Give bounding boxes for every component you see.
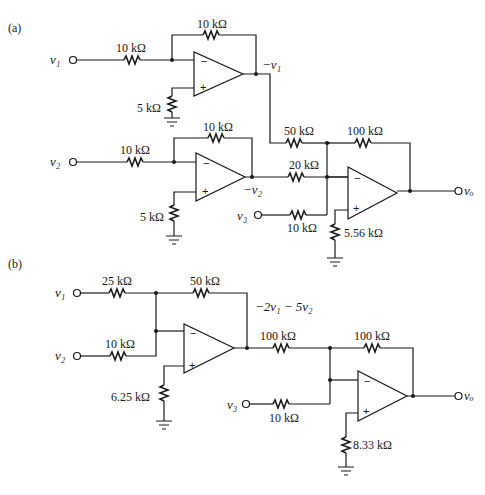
r-b-p2-label: 8.33 kΩ	[353, 439, 392, 451]
v3-label-b: v₃	[227, 398, 237, 411]
r-a-in1-label: 10 kΩ	[116, 42, 146, 54]
r-b-f2-label: 100 kΩ	[354, 330, 390, 342]
circuit-schematic	[0, 0, 485, 495]
opamp-b1-plus: +	[189, 360, 195, 371]
resistor-a-rp3	[331, 224, 339, 240]
v1-label-b: v₁	[55, 286, 65, 299]
v3-terminal	[255, 212, 262, 219]
part-b-label: (b)	[8, 258, 22, 270]
resistor-a-rin1	[124, 56, 140, 64]
r-a-f3-label: 100 kΩ	[347, 125, 383, 137]
v3-label: v₃	[237, 209, 247, 222]
part-b-circuit	[74, 289, 463, 475]
resistor-a-rin2	[127, 158, 143, 166]
v2-terminal-b	[74, 353, 81, 360]
v2-label: v₂	[50, 155, 60, 168]
resistor-b-rin3	[273, 400, 289, 408]
r-b-link-label: 100 kΩ	[260, 330, 296, 342]
opamp-b2-plus: +	[363, 406, 369, 417]
resistor-a-rsum2	[288, 173, 304, 181]
opamp-2-minus: −	[203, 158, 209, 169]
resistor-b-rin1	[109, 289, 125, 297]
ground-b1-icon	[156, 421, 172, 429]
v1-label: v₁	[50, 53, 60, 66]
mid-node-label: −2v₁ − 5v₂	[255, 300, 313, 313]
ground-b2-icon	[338, 467, 354, 475]
r-a-in2-label: 10 kΩ	[120, 144, 150, 156]
neg-v1-label: −v₁	[262, 58, 281, 71]
resistor-b-rp2	[342, 437, 350, 453]
resistor-b-rp1	[160, 385, 168, 401]
r-a-p2-label: 5 kΩ	[140, 211, 164, 223]
r-a-p1-label: 5 kΩ	[137, 102, 161, 114]
resistor-a-rf3	[355, 139, 371, 147]
ground-a3-icon	[327, 258, 343, 266]
resistor-a-rf2	[208, 134, 224, 142]
r-a-p3-label: 5.56 kΩ	[344, 227, 383, 239]
opamp-b1-minus: −	[190, 328, 196, 339]
opamp-3-plus: +	[353, 203, 359, 214]
r-a-sum1-label: 50 kΩ	[284, 125, 314, 137]
r-a-f2-label: 10 kΩ	[203, 121, 233, 133]
resistor-b-rin2	[110, 352, 126, 360]
r-b-in2-label: 10 kΩ	[105, 338, 135, 350]
resistor-a-rp2	[170, 205, 178, 221]
resistor-a-rsum1	[286, 139, 302, 147]
ground-a1-icon	[164, 118, 180, 126]
r-b-in3-label: 10 kΩ	[269, 412, 299, 424]
resistor-b-rlink	[273, 344, 289, 352]
resistor-a-rsum3	[290, 211, 306, 219]
opamp-1-plus: +	[200, 82, 206, 93]
part-a-label: (a)	[8, 22, 21, 34]
vo-terminal-b	[455, 393, 462, 400]
r-b-in1-label: 25 kΩ	[102, 275, 132, 287]
v2-label-b: v₂	[55, 349, 65, 362]
vo-label-a: vₒ	[464, 184, 473, 197]
r-a-f1-label: 10 kΩ	[197, 18, 227, 30]
resistor-a-rf1	[203, 31, 219, 39]
opamp-3-minus: −	[354, 173, 360, 184]
neg-v2-label: −v₂	[243, 183, 262, 196]
opamp-2-plus: +	[202, 186, 208, 197]
r-b-f1-label: 50 kΩ	[190, 275, 220, 287]
resistor-a-rp1	[168, 96, 176, 112]
ground-a2-icon	[166, 236, 182, 244]
circuit-figure: (a) v₁ 10 kΩ 10 kΩ 5 kΩ −v₁ v₂ 10 kΩ 10 …	[0, 0, 485, 495]
vo-label-b: vₒ	[464, 389, 473, 402]
resistor-b-rf2	[364, 344, 380, 352]
v1-terminal-b	[74, 290, 81, 297]
vo-terminal-a	[455, 188, 462, 195]
opamp-1-minus: −	[201, 56, 207, 67]
v2-terminal	[70, 159, 77, 166]
r-a-sum3-label: 10 kΩ	[287, 222, 317, 234]
r-a-sum2-label: 20 kΩ	[289, 159, 319, 171]
v3-terminal-b	[243, 401, 250, 408]
resistor-b-rf1	[193, 289, 209, 297]
r-b-p1-label: 6.25 kΩ	[111, 391, 150, 403]
opamp-b2-minus: −	[364, 376, 370, 387]
v1-terminal	[70, 57, 77, 64]
